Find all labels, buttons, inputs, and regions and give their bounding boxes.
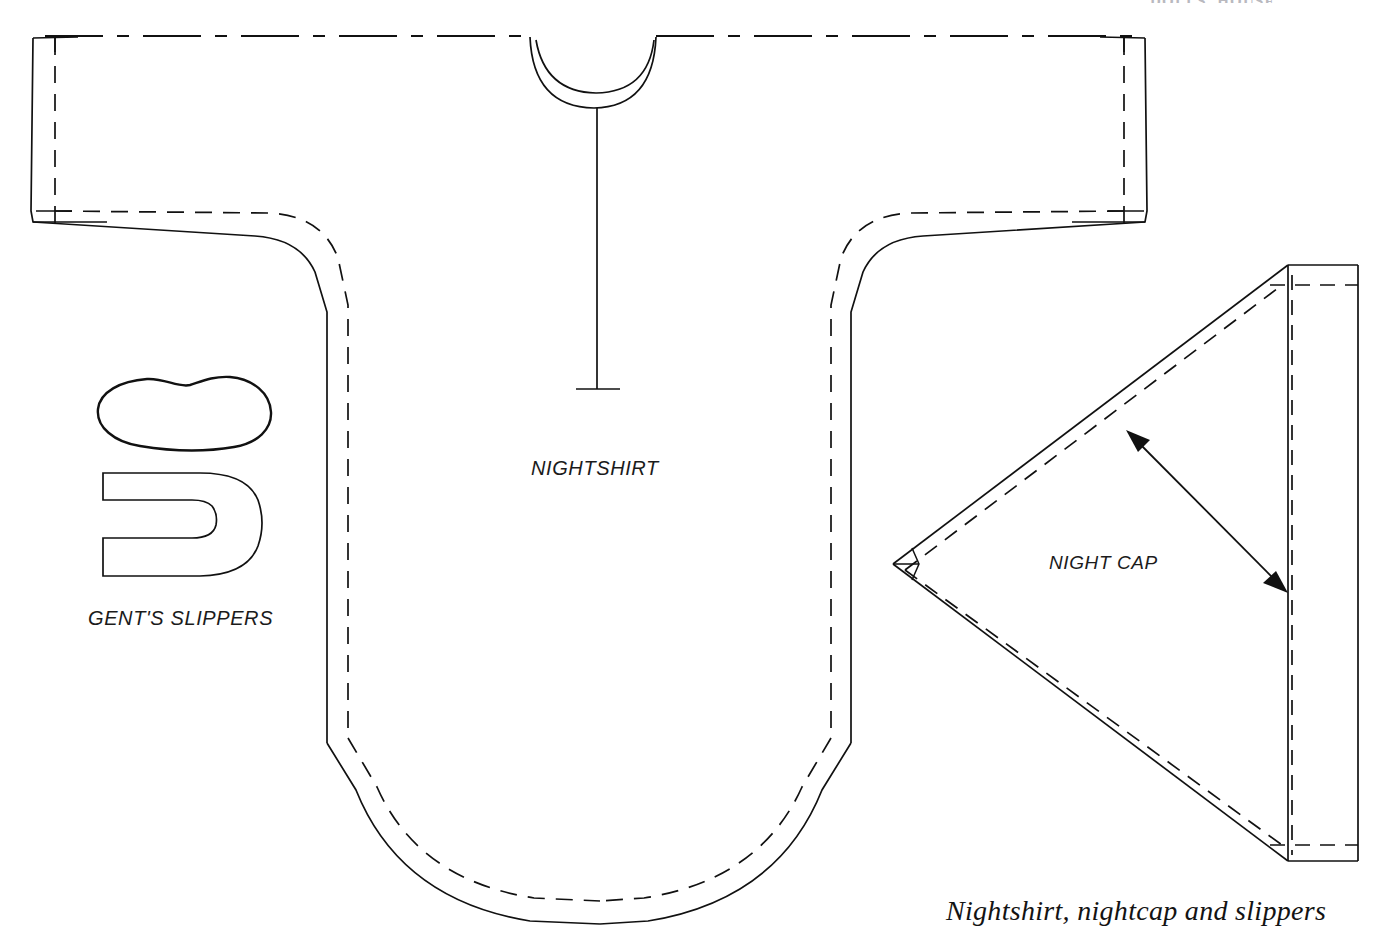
nightcap-label: NIGHT CAP xyxy=(1049,552,1158,574)
page-header: DOLLS' HOUSE xyxy=(1150,0,1276,3)
nightshirt-right-underarm-cutline xyxy=(851,222,1145,743)
nightshirt-right-underarm-seamline xyxy=(831,211,1124,738)
nightcap-seamline-bottom xyxy=(905,570,1282,845)
nightcap-cutline-top xyxy=(893,265,1288,564)
nightshirt-left-underarm-seamline xyxy=(55,211,348,738)
nightcap-apex-notch xyxy=(893,548,919,580)
figure-caption: Nightshirt, nightcap and slippers xyxy=(946,895,1326,927)
nightcap-grainline-arrowhead-lower xyxy=(1263,571,1288,593)
nightshirt-left-cuff-edge xyxy=(31,38,107,222)
nightshirt-left-hem-seamline xyxy=(348,738,600,901)
nightshirt-neckband-arc xyxy=(536,40,654,93)
slipper-sole-piece xyxy=(98,377,271,450)
pattern-sheet: NIGHTSHIRT NIGHT CAP GENT'S SLIPPERS Nig… xyxy=(0,0,1386,934)
nightshirt-piece xyxy=(31,36,1147,924)
slipper-sole-outline xyxy=(98,377,271,450)
nightshirt-right-cuff-top-tick xyxy=(1100,37,1145,38)
slipper-upper-piece xyxy=(103,473,262,576)
nightshirt-right-hem-cutline xyxy=(600,743,851,924)
nightshirt-label: NIGHTSHIRT xyxy=(531,457,659,480)
nightcap-seamline-top xyxy=(905,285,1282,570)
nightshirt-left-underarm-cutline xyxy=(33,222,327,743)
nightshirt-right-cuff-edge xyxy=(1072,38,1147,222)
pattern-line-art xyxy=(0,0,1386,934)
nightcap-grainline-arrowhead-upper xyxy=(1126,430,1150,452)
nightshirt-right-hem-seamline xyxy=(600,738,831,901)
slipper-upper-outline xyxy=(103,473,262,576)
nightcap-cutline-bottom xyxy=(893,564,1288,861)
slippers-label: GENT'S SLIPPERS xyxy=(88,607,273,630)
